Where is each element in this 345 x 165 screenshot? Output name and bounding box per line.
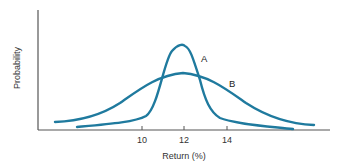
curve-a — [77, 45, 293, 129]
curve-a-label: A — [201, 53, 208, 64]
curve-b — [55, 73, 314, 125]
probability-distribution-chart: 10 12 14 Return (%) Probability A B — [0, 0, 345, 165]
x-axis-label: Return (%) — [162, 151, 206, 161]
x-tick-label-12: 12 — [179, 135, 189, 145]
curve-b-label: B — [229, 78, 235, 89]
x-tick-label-14: 14 — [222, 135, 232, 145]
x-tick-label-10: 10 — [137, 135, 147, 145]
y-axis-label: Probability — [12, 46, 22, 89]
